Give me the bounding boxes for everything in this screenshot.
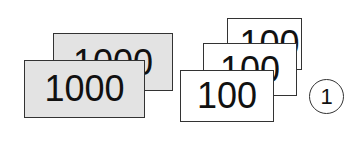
card-1000-front: 1000	[24, 60, 145, 118]
label-value: 1	[320, 84, 332, 110]
circled-number-label: 1	[309, 79, 344, 114]
card-value: 1000	[44, 68, 124, 110]
card-100-front: 100	[180, 70, 274, 122]
card-value: 100	[197, 75, 257, 117]
